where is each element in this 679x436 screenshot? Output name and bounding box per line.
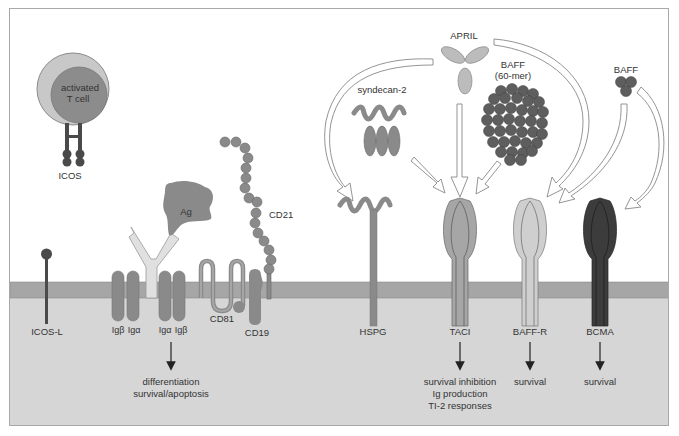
april-ligand: APRIL	[439, 30, 492, 94]
arrow-syndecan-to-taci	[411, 157, 445, 193]
arrow-bafftrimer-to-bcma	[625, 87, 664, 209]
icos-l-label: ICOS-L	[31, 326, 63, 337]
taci-outcome-1: survival inhibition	[424, 376, 496, 387]
baff-trimer-label: BAFF	[614, 64, 638, 75]
baff-60mer: BAFF (60-mer)	[482, 59, 549, 166]
icos-label: ICOS	[58, 170, 81, 181]
cell-membrane	[10, 282, 669, 298]
ig-beta-1-label: Igβ	[112, 325, 125, 335]
taci-outcome-3: TI-2 responses	[428, 400, 492, 411]
cytoplasm-region	[10, 297, 669, 426]
baff-60mer-label-2: (60-mer)	[495, 70, 531, 81]
ig-beta-2-label: Igβ	[175, 325, 188, 335]
antigen: Ag	[163, 181, 213, 235]
activated-t-cell: activated T cell	[37, 53, 109, 125]
syndecan-2-label: syndecan-2	[357, 84, 406, 95]
arrow-april-to-taci	[451, 104, 468, 197]
arrow-bafftrimer-to-baffr	[559, 104, 627, 203]
syndecan-2: syndecan-2	[354, 84, 407, 156]
bcr-outcome-2: survival/apoptosis	[133, 388, 209, 399]
t-cell-label-1: activated	[61, 82, 99, 93]
cd19-label: CD19	[245, 327, 269, 338]
bcma-label: BCMA	[586, 326, 614, 337]
diagram-frame: activated T cell ICOS ICOS-L Igβ Igα Igα…	[9, 8, 669, 426]
t-cell-label-2: T cell	[67, 93, 90, 104]
ig-alpha-2-label: Igα	[159, 325, 172, 335]
icos-receptor: ICOS	[58, 123, 84, 181]
baff-r-outcome: survival	[514, 376, 546, 387]
antigen-label: Ag	[180, 206, 192, 217]
baff-r-label: BAFF-R	[513, 326, 547, 337]
april-label: APRIL	[450, 30, 477, 41]
baff-trimer: BAFF	[614, 64, 638, 97]
taci-label: TACI	[450, 326, 471, 337]
diagram-canvas: activated T cell ICOS ICOS-L Igβ Igα Igα…	[10, 9, 669, 426]
baff-60mer-label-1: BAFF	[501, 59, 525, 70]
bcr-outcome-1: differentiation	[143, 376, 200, 387]
cd81-label: CD81	[210, 313, 234, 324]
hspg-label: HSPG	[360, 326, 387, 337]
ig-alpha-1-label: Igα	[128, 325, 141, 335]
taci-outcome-2: Ig production	[433, 388, 488, 399]
bcma-outcome: survival	[584, 376, 616, 387]
cd21-label: CD21	[269, 209, 293, 220]
arrow-baff60-to-taci	[476, 161, 501, 194]
